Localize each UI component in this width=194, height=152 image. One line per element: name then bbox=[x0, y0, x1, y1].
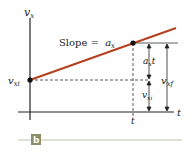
velocity-line bbox=[30, 28, 176, 80]
panel-label: b bbox=[33, 135, 40, 145]
slope-label: Slope = ax bbox=[59, 37, 115, 50]
velocity-time-graph: vx t Slope = ax vxi t axt vxi vxf b bbox=[0, 0, 194, 152]
vxf-label: vxf bbox=[161, 75, 175, 88]
x-axis-label: t bbox=[177, 107, 182, 118]
vxi-left-label: vxi bbox=[8, 75, 20, 88]
t-tick-label: t bbox=[131, 116, 135, 126]
final-point bbox=[130, 40, 135, 45]
y-axis-label: vx bbox=[24, 6, 34, 20]
initial-point bbox=[27, 77, 32, 82]
vxi-right-label: vxi bbox=[142, 90, 152, 101]
